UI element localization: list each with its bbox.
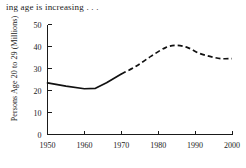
y-tick-label: 50 bbox=[34, 21, 42, 30]
chart-figure: ing age is increasing . . . Persons Age … bbox=[0, 0, 246, 168]
x-tick-label: 2000 bbox=[224, 141, 240, 150]
series-line-projected bbox=[121, 45, 232, 74]
x-tick-label: 1970 bbox=[113, 141, 129, 150]
x-tick-label: 1950 bbox=[40, 141, 56, 150]
x-tick-label: 1960 bbox=[76, 141, 92, 150]
y-tick-label: 0 bbox=[38, 131, 42, 140]
x-tick-label: 1990 bbox=[187, 141, 203, 150]
axis-lines bbox=[48, 25, 233, 135]
x-tick-label-group: 195019601970198019902000 bbox=[40, 141, 241, 150]
y-tick-label: 10 bbox=[34, 109, 42, 118]
y-tick-label-group: 01020304050 bbox=[34, 21, 42, 140]
y-tick-label: 20 bbox=[34, 87, 42, 96]
y-tick-label: 30 bbox=[34, 65, 42, 74]
x-tick-label: 1980 bbox=[150, 141, 166, 150]
y-tick-label: 40 bbox=[34, 43, 42, 52]
tick-mark-group bbox=[48, 25, 233, 135]
series-line-actual bbox=[48, 74, 122, 89]
plot-area: 01020304050 195019601970198019902000 bbox=[0, 0, 246, 168]
